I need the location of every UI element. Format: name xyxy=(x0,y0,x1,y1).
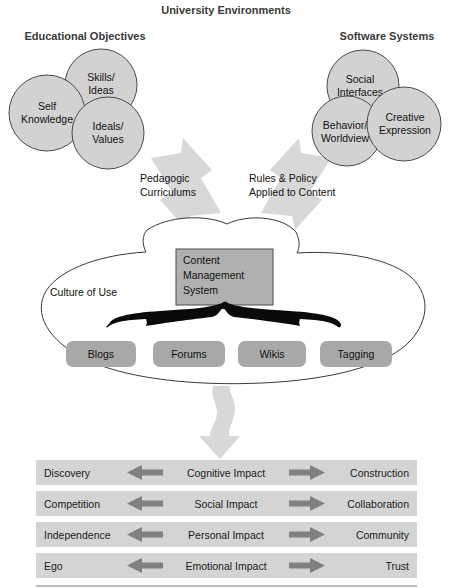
row-right-label: Community xyxy=(356,529,410,541)
cms-line-3: System xyxy=(183,284,218,296)
circle-label-behavior-worldview-line1: Behavior/ xyxy=(323,119,367,131)
circle-label-self-knowledge-line2: Knowledge xyxy=(21,113,73,125)
right-circle-group: Social Interfaces Behavior/ Worldview Cr… xyxy=(312,50,441,166)
cms-line-2: Management xyxy=(183,269,244,281)
impact-rows: Discovery Cognitive Impact Construction … xyxy=(36,460,417,578)
circle-ideals-values: Ideals/ Values xyxy=(72,97,144,169)
left-circle-group: Skills/ Ideas Self Knowledge Ideals/ Val… xyxy=(9,49,144,169)
arrow-label-pedagogic-line1: Pedagogic xyxy=(140,172,190,184)
circle-label-self-knowledge-line1: Self xyxy=(38,100,56,112)
row-left-label: Independence xyxy=(44,529,111,541)
circle-label-creative-expression-line1: Creative xyxy=(385,111,424,123)
arrow-label-pedagogic-line2: Curriculums xyxy=(140,186,196,198)
circle-label-skills-ideas-line1: Skills/ xyxy=(87,71,115,83)
pedagogic-curriculums-arrow xyxy=(151,138,221,230)
pill-wikis[interactable]: Wikis xyxy=(238,341,306,367)
pill-label-blogs: Blogs xyxy=(88,348,114,360)
pill-label-forums: Forums xyxy=(171,348,207,360)
right-group-heading: Software Systems xyxy=(340,30,435,42)
left-group-heading: Educational Objectives xyxy=(24,30,145,42)
circle-label-creative-expression-line2: Expression xyxy=(379,124,431,136)
cloud-label: Culture of Use xyxy=(50,286,117,298)
row-left-label: Ego xyxy=(44,560,63,572)
content-management-system-box: Content Management System xyxy=(176,249,273,305)
row-center-label: Cognitive Impact xyxy=(187,467,265,479)
table-row: Ego Emotional Impact Trust xyxy=(36,553,417,578)
table-row: Competition Social Impact Collaboration xyxy=(36,491,417,516)
row-center-label: Personal Impact xyxy=(188,529,264,541)
pill-blogs[interactable]: Blogs xyxy=(66,341,136,367)
row-center-label: Emotional Impact xyxy=(185,560,266,572)
table-row: Discovery Cognitive Impact Construction xyxy=(36,460,417,485)
table-row: Independence Personal Impact Community xyxy=(36,522,417,547)
university-environments-diagram: University Environments Educational Obje… xyxy=(0,0,453,588)
circle-creative-expression: Creative Expression xyxy=(367,87,441,161)
row-right-label: Collaboration xyxy=(347,498,409,510)
circle-label-behavior-worldview-line2: Worldview xyxy=(321,132,370,144)
cms-line-1: Content xyxy=(183,254,220,266)
arrow-label-rules-line2: Applied to Content xyxy=(249,186,335,198)
page-title: University Environments xyxy=(161,4,291,16)
circle-label-skills-ideas-line2: Ideas xyxy=(88,84,114,96)
pill-label-wikis: Wikis xyxy=(259,348,284,360)
pill-forums[interactable]: Forums xyxy=(153,341,225,367)
diagram-canvas: University Environments Educational Obje… xyxy=(0,0,453,588)
pill-label-tagging: Tagging xyxy=(338,348,375,360)
row-left-label: Discovery xyxy=(44,467,91,479)
circle-label-ideals-values-line2: Values xyxy=(92,133,123,145)
circle-label-social-interfaces-line1: Social xyxy=(346,73,375,85)
row-left-label: Competition xyxy=(44,498,100,510)
row-right-label: Trust xyxy=(385,560,409,572)
row-center-label: Social Impact xyxy=(194,498,257,510)
arrow-label-rules-line1: Rules & Policy xyxy=(249,172,317,184)
row-right-label: Construction xyxy=(350,467,409,479)
pill-tagging[interactable]: Tagging xyxy=(320,341,392,367)
circle-label-ideals-values-line1: Ideals/ xyxy=(93,120,124,132)
cloud-to-impacts-arrow xyxy=(199,386,240,459)
